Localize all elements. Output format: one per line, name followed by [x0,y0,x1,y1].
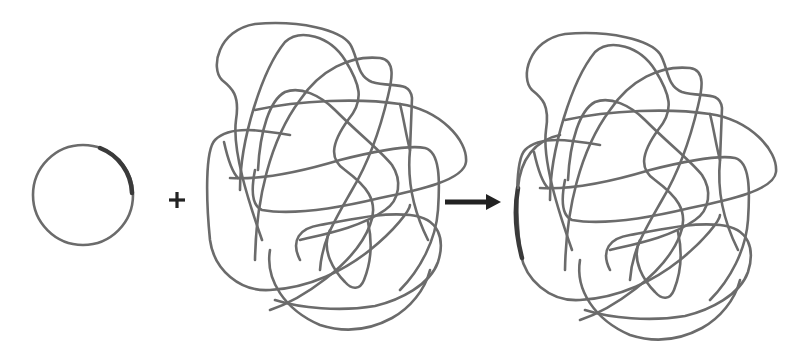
diagram-svg [0,0,810,357]
plasmid-marked-segment [100,148,132,193]
plasmid [33,145,133,245]
diagram-canvas [0,0,810,357]
reaction-arrow-icon [445,194,501,210]
chromosome-tangle [207,23,466,329]
recombinant-chromosome-tangle [516,33,776,339]
plus-icon [169,192,185,208]
